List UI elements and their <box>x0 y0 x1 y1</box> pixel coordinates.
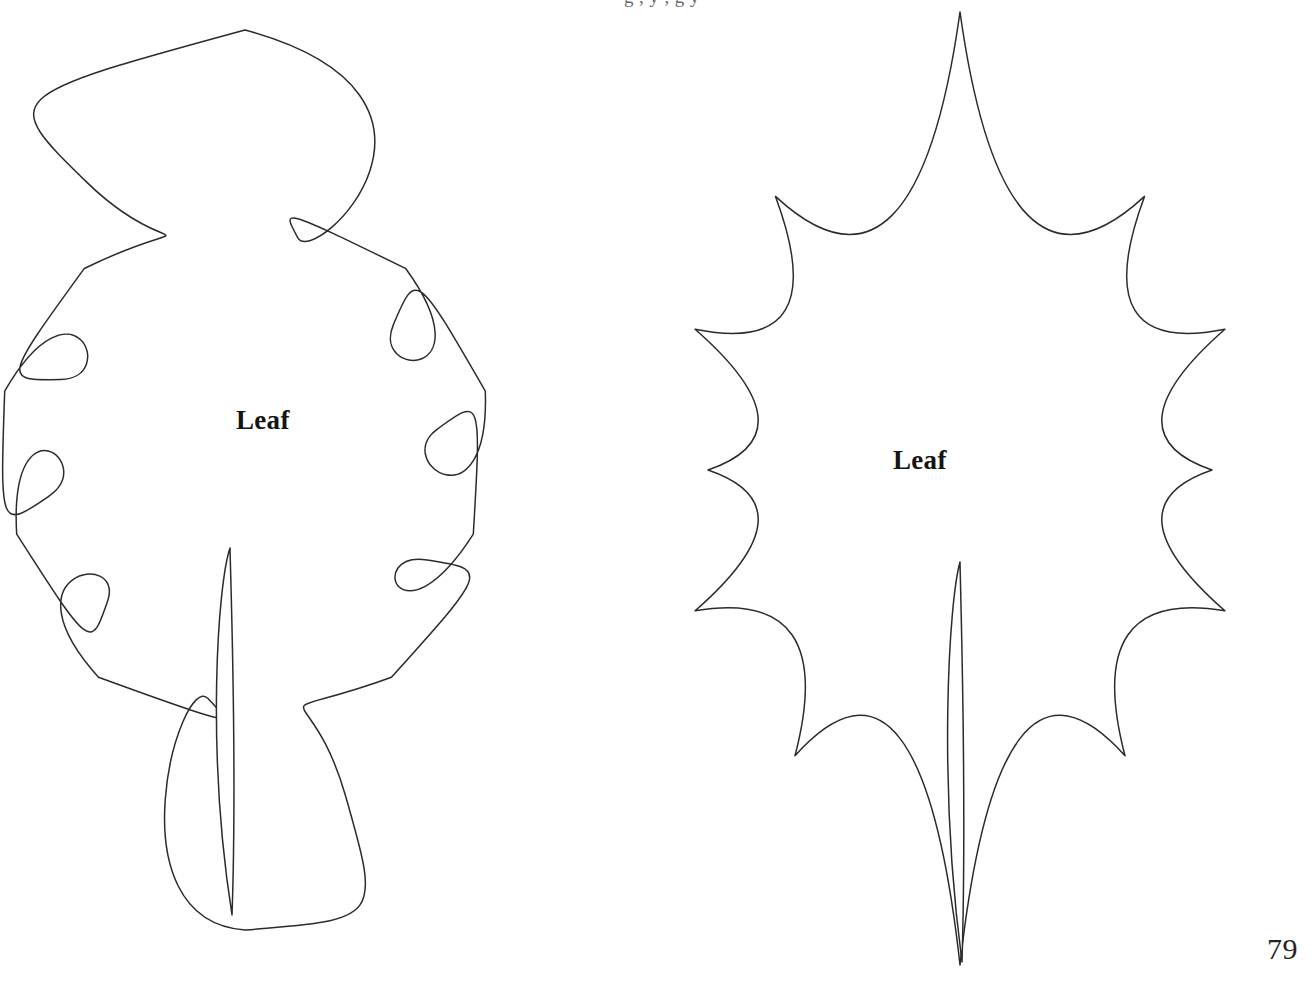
running-head-strip: g , y , g y <box>0 0 1316 11</box>
leaf-label-holly: Leaf <box>893 447 947 474</box>
holly-leaf-render <box>0 0 1316 988</box>
oak-leaf-body-path <box>3 30 486 930</box>
leaf-label-oak: Leaf <box>236 407 290 434</box>
oak-leaf-stem-slit-path <box>216 548 234 915</box>
oak-leaf-outline-group <box>3 30 486 930</box>
leaf-template-right <box>0 0 1316 988</box>
holly-leaf-stem-slit-path <box>948 562 964 962</box>
page-number: 79 <box>1267 932 1298 966</box>
holly-leaf-true-outline <box>695 12 1225 965</box>
running-head-text: g , y , g y <box>624 0 700 8</box>
book-page: g , y , g y Leaf <box>0 0 1316 988</box>
leaf-template-left <box>0 0 1316 988</box>
holly-leaf-contour-path <box>695 12 1225 965</box>
